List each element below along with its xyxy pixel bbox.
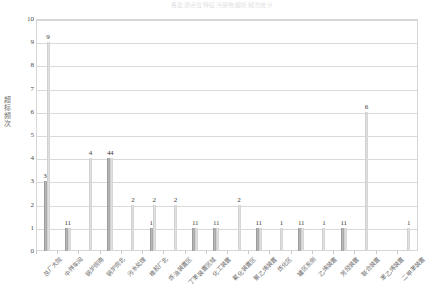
y-axis-tick-label: 3 [14, 178, 34, 185]
bar: 1 [68, 228, 71, 251]
y-axis-title: 超标频次 [1, 96, 13, 128]
bar-group: 1 [269, 19, 290, 251]
y-axis-tick-label: 4 [14, 155, 34, 162]
bar: 2 [174, 205, 177, 251]
bar: 1 [407, 228, 410, 251]
bar-group: 4 [78, 19, 99, 251]
x-axis-label-cell: 二甲苯装置 [397, 255, 418, 303]
x-axis-tick-label: 二甲苯装置 [401, 256, 427, 282]
bar: 1 [344, 228, 347, 251]
x-axis-label-cell: 乙烯装置 [312, 255, 333, 303]
y-axis-tick-label: 7 [14, 85, 34, 92]
y-axis-tick-label: 0 [14, 248, 34, 255]
bar-value-label: 4 [110, 150, 114, 157]
x-axis-label-cell: 苯乙烯装置 [376, 255, 397, 303]
y-axis-tick-label: 5 [14, 132, 34, 139]
bar-group [376, 19, 397, 251]
y-axis-title-char: 频 [1, 112, 13, 120]
x-axis-label-cell: 芳烃装置 [333, 255, 354, 303]
bar-value-label: 6 [365, 104, 369, 111]
y-axis-tick-label: 2 [14, 201, 34, 208]
y-axis-tick-labels: 012345678910 [14, 19, 34, 251]
bar-group: 12 [142, 19, 163, 251]
x-axis-label-cell: 锅炉房北 [100, 255, 121, 303]
bar: 2 [238, 205, 241, 251]
bar-value-label: 1 [259, 220, 263, 227]
bar-group: 44 [100, 19, 121, 251]
bar-group: 11 [291, 19, 312, 251]
chart-container: 各监测点位特征污染物超标频次统计 超标频次 012345678910 39114… [0, 0, 444, 303]
y-axis-tick-label: 10 [14, 16, 34, 23]
bar-value-label: 1 [216, 220, 220, 227]
bar-value-label: 1 [322, 220, 326, 227]
x-axis-label-cell: 聚乙烯装置 [248, 255, 269, 303]
chart-title: 各监测点位特征污染物超标频次统计 [0, 0, 444, 10]
x-axis-label-cell: 联合装置 [354, 255, 375, 303]
x-axis-label-cell: 丁苯装置区域 [185, 255, 206, 303]
x-axis-label-cell: 化工装置 [206, 255, 227, 303]
y-axis-tick-label: 9 [14, 39, 34, 46]
x-axis-label-cell: 炼油装置区 [163, 255, 184, 303]
x-axis-label-cell: 氟化装置区 [227, 255, 248, 303]
bar-value-label: 1 [280, 220, 284, 227]
bar-value-label: 1 [195, 220, 199, 227]
bar: 1 [195, 228, 198, 251]
bars-layer: 39114442122111121111111161 [36, 19, 418, 251]
bar: 4 [89, 158, 92, 251]
bar-group: 11 [333, 19, 354, 251]
bar-value-label: 2 [131, 197, 135, 204]
x-axis-label-cell: 中拌车间 [57, 255, 78, 303]
bar-value-label: 1 [343, 220, 347, 227]
bar-value-label: 2 [237, 197, 241, 204]
bar: 1 [216, 228, 219, 251]
y-axis-title-char: 次 [1, 120, 13, 128]
bar-group: 11 [206, 19, 227, 251]
bar-group: 11 [185, 19, 206, 251]
x-axis-label-cell: 炼化区 [269, 255, 290, 303]
bar-value-label: 1 [68, 220, 72, 227]
y-axis-tick-label: 6 [14, 108, 34, 115]
bar-group: 11 [57, 19, 78, 251]
y-axis-tick-label: 8 [14, 62, 34, 69]
x-axis-label-cell: 罐区东侧 [291, 255, 312, 303]
bar: 1 [259, 228, 262, 251]
x-axis-label-cell: 锅炉房南 [78, 255, 99, 303]
bar: 2 [131, 205, 134, 251]
bar-group: 39 [36, 19, 57, 251]
x-axis-label-cell: 污水处理 [121, 255, 142, 303]
bar: 6 [365, 112, 368, 251]
y-axis-title-char: 标 [1, 104, 13, 112]
x-axis-tick-labels: 总厂大院中拌车间锅炉房南锅炉房北污水处理橡胶厂北炼油装置区丁苯装置区域化工装置氟… [36, 255, 418, 303]
bar-group: 1 [312, 19, 333, 251]
bar-value-label: 1 [301, 220, 305, 227]
bar-group: 2 [121, 19, 142, 251]
bar: 2 [153, 205, 156, 251]
bar: 1 [301, 228, 304, 251]
bar-group: 6 [354, 19, 375, 251]
bar-value-label: 2 [152, 197, 156, 204]
bar-group: 2 [227, 19, 248, 251]
bar-group: 1 [397, 19, 418, 251]
bar: 9 [47, 42, 50, 251]
bar-value-label: 9 [46, 34, 50, 41]
bar: 1 [280, 228, 283, 251]
bar-value-label: 2 [174, 197, 178, 204]
y-axis-title-char: 超 [1, 96, 13, 104]
x-axis-label-cell: 橡胶厂北 [142, 255, 163, 303]
bar-value-label: 4 [89, 150, 93, 157]
bar-group: 11 [248, 19, 269, 251]
bar-value-label: 1 [407, 220, 411, 227]
bar: 4 [110, 158, 113, 251]
y-axis-tick-label: 1 [14, 224, 34, 231]
x-axis-label-cell: 总厂大院 [36, 255, 57, 303]
bar: 1 [322, 228, 325, 251]
bar-group: 2 [163, 19, 184, 251]
